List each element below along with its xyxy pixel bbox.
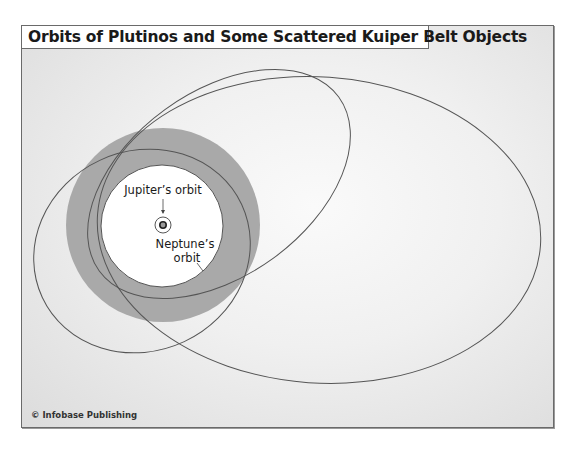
jupiter-label: Jupiter’s orbit bbox=[123, 183, 202, 197]
credit-text: © Infobase Publishing bbox=[31, 410, 137, 420]
neptune-label-line1: Neptune’s bbox=[156, 237, 215, 251]
diagram-title: Orbits of Plutinos and Some Scattered Ku… bbox=[28, 28, 527, 46]
neptune-label-line2: orbit bbox=[174, 251, 201, 265]
sun-icon bbox=[160, 222, 166, 228]
diagram-frame: Jupiter’s orbit Neptune’s orbit Orbits o… bbox=[21, 25, 554, 428]
orbit-diagram: Jupiter’s orbit Neptune’s orbit bbox=[22, 26, 553, 427]
title-box: Orbits of Plutinos and Some Scattered Ku… bbox=[22, 26, 429, 49]
